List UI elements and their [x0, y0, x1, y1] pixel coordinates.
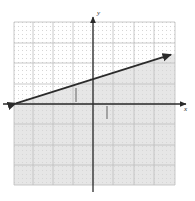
coordinate-graph: y x [0, 0, 195, 201]
graph-figure: y x [0, 0, 195, 201]
